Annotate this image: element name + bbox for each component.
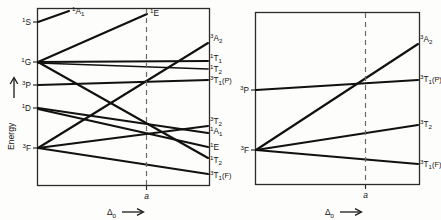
line-r-3F-3T2	[256, 125, 418, 150]
term-label-r-3T2: 3T2	[420, 118, 432, 131]
right-panel-left-term-labels: 3P 3F	[240, 84, 249, 155]
term-label-1A1-top: 1A1	[72, 5, 85, 18]
term-label-1T2-right-lower: 1T2	[210, 154, 222, 167]
left-panel-correlation-lines	[38, 11, 208, 174]
line-r-3F-3T1F	[256, 150, 418, 164]
left-panel-frame	[38, 9, 210, 186]
left-panel: a Δ0 1S 1G 3P 1D 3F 1A1 1E 3A2 1T1 1T2	[21, 5, 232, 219]
line-1G-1E-top	[38, 14, 147, 62]
line-1G-1T2	[38, 63, 208, 69]
term-label-r-3P: 3P	[240, 84, 249, 95]
right-panel-x-arrow-icon	[340, 209, 362, 216]
term-label-r-3T1P: 3T1(P)	[420, 73, 441, 86]
line-3F-3A2	[38, 43, 208, 148]
term-label-r-3F: 3F	[241, 144, 249, 155]
term-label-1G: 1G	[21, 56, 31, 67]
line-1D-1E	[38, 109, 208, 147]
y-axis-arrow-icon	[10, 78, 18, 99]
line-r-3F-3A2	[256, 44, 418, 150]
right-panel-x-axis-label-group: Δ0	[325, 207, 362, 219]
line-1G-1T2-lower	[38, 62, 208, 158]
term-label-1D: 1D	[22, 102, 31, 113]
left-panel-left-term-labels: 1S 1G 3P 1D 3F	[21, 16, 31, 153]
line-3F-3T1F	[38, 148, 208, 174]
line-1S-1A1	[38, 11, 69, 22]
term-label-3T1P-right: 3T1(P)	[210, 74, 232, 87]
right-panel: a Δ0 3P 3F 3A2 3T1(P) 3T2 3T1(F)	[240, 13, 441, 219]
line-3P-3T1P	[38, 80, 208, 85]
term-label-3F: 3F	[23, 142, 31, 153]
right-panel-x-tick-label: a	[363, 190, 368, 200]
line-r-3P-3T1P	[256, 80, 418, 90]
term-label-1S: 1S	[22, 16, 31, 27]
correlation-diagram-figure: Energy	[0, 0, 441, 220]
left-panel-x-tick-label: a	[144, 191, 149, 201]
term-label-3A2-right: 3A2	[210, 32, 223, 45]
term-label-1E-top: 1E	[150, 7, 159, 18]
term-label-r-3A2: 3A2	[420, 33, 433, 46]
right-panel-correlation-lines	[256, 44, 418, 164]
right-panel-x-axis-label: Δ0	[325, 207, 335, 219]
right-panel-frame	[256, 13, 420, 185]
left-panel-right-term-labels: 3A2 1T1 1T2 3T1(P) 3T2 1A1 1E 1T2 3T1(F)	[210, 32, 232, 182]
term-label-r-3T1F: 3T1(F)	[420, 158, 441, 171]
term-label-1E-right: 1E	[210, 141, 219, 152]
left-panel-x-arrow-icon	[122, 209, 144, 216]
line-1G-1T1	[38, 61, 208, 62]
term-label-3P: 3P	[22, 79, 31, 90]
left-panel-x-axis-label: Δ0	[107, 207, 117, 219]
y-axis-label: Energy	[6, 122, 16, 150]
y-axis-label-group: Energy	[6, 78, 18, 151]
left-panel-x-axis-label-group: Δ0	[107, 207, 144, 219]
right-panel-right-term-labels: 3A2 3T1(P) 3T2 3T1(F)	[420, 33, 441, 171]
term-label-3T1F-right: 3T1(F)	[210, 169, 231, 182]
